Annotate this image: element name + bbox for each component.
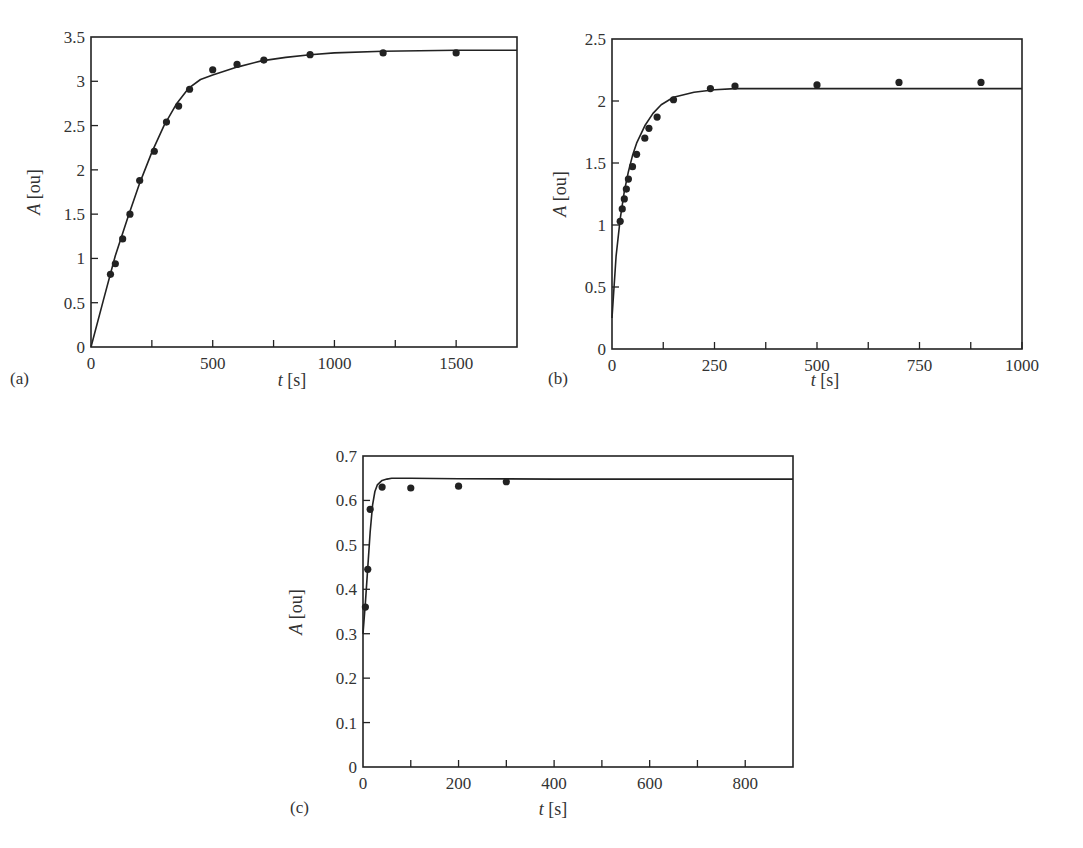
data-point	[453, 49, 460, 56]
y-tick-label: 1.5	[64, 205, 85, 224]
y-tick-label: 0.5	[336, 536, 357, 555]
x-axis-label: t [s]	[811, 370, 840, 390]
plot-frame	[91, 37, 517, 347]
y-tick-label: 2.5	[64, 117, 85, 136]
y-tick-label: 0.5	[64, 294, 85, 313]
data-point	[813, 81, 820, 88]
y-axis-label: A [ou]	[550, 171, 570, 218]
data-point	[407, 484, 414, 491]
x-tick-label: 400	[541, 774, 567, 793]
x-tick-label: 200	[446, 774, 472, 793]
data-point	[136, 177, 143, 184]
fit-curve	[612, 89, 1022, 318]
data-point	[625, 176, 632, 183]
y-tick-label: 0.5	[585, 278, 606, 297]
data-point	[260, 56, 267, 63]
data-point	[633, 151, 640, 158]
x-tick-label: 1000	[317, 354, 351, 373]
data-point	[645, 125, 652, 132]
x-tick-label: 750	[907, 356, 933, 375]
panel-label: (b)	[548, 369, 568, 388]
y-tick-label: 0.3	[336, 625, 357, 644]
data-point	[731, 83, 738, 90]
y-tick-label: 0.4	[336, 580, 358, 599]
data-point	[209, 66, 216, 73]
plot-frame	[363, 456, 793, 767]
y-axis-label: A [ou]	[24, 169, 44, 216]
panel-label: (c)	[290, 798, 309, 817]
chart-panel-b: 0250500750100000.511.522.5t [s]A [ou](b)	[548, 30, 1039, 390]
data-point	[455, 483, 462, 490]
data-point	[503, 478, 510, 485]
data-point	[629, 163, 636, 170]
data-point	[362, 603, 369, 610]
x-axis-label: t [s]	[278, 370, 307, 390]
data-point	[621, 195, 628, 202]
data-point	[233, 61, 240, 68]
x-tick-label: 500	[200, 354, 226, 373]
y-tick-label: 0.6	[336, 491, 357, 510]
data-point	[895, 79, 902, 86]
data-point	[306, 51, 313, 58]
figure: 05001000150000.511.522.533.5t [s]A [ou](…	[0, 0, 1083, 848]
data-point	[364, 566, 371, 573]
x-tick-label: 1500	[439, 354, 473, 373]
data-point	[379, 484, 386, 491]
chart-panel-c: 020040060080000.10.20.30.40.50.60.7t [s]…	[286, 447, 793, 819]
y-tick-label: 0	[349, 758, 358, 777]
y-tick-label: 3.5	[64, 28, 85, 47]
fit-curve	[91, 50, 517, 347]
y-tick-label: 0	[77, 338, 86, 357]
data-point	[977, 79, 984, 86]
data-point	[126, 211, 133, 218]
data-point	[619, 205, 626, 212]
x-tick-label: 0	[87, 354, 96, 373]
y-tick-label: 1	[77, 249, 86, 268]
data-point	[163, 118, 170, 125]
chart-panel-a: 05001000150000.511.522.533.5t [s]A [ou](…	[10, 28, 517, 390]
data-point	[380, 49, 387, 56]
y-tick-label: 2.5	[585, 30, 606, 49]
y-tick-label: 0.1	[336, 714, 357, 733]
y-tick-label: 2	[77, 161, 86, 180]
data-point	[107, 271, 114, 278]
data-point	[367, 506, 374, 513]
x-tick-label: 1000	[1005, 356, 1039, 375]
y-tick-label: 1.5	[585, 154, 606, 173]
x-tick-label: 0	[359, 774, 368, 793]
data-point	[670, 96, 677, 103]
y-tick-label: 1	[598, 216, 607, 235]
x-tick-label: 600	[637, 774, 663, 793]
data-point	[617, 218, 624, 225]
y-tick-label: 0.7	[336, 447, 358, 466]
panel-label: (a)	[10, 369, 29, 388]
fit-curve	[363, 478, 793, 634]
data-point	[641, 135, 648, 142]
data-point	[707, 85, 714, 92]
y-tick-label: 3	[77, 72, 86, 91]
data-point	[112, 260, 119, 267]
x-axis-label: t [s]	[539, 799, 568, 819]
data-point	[151, 148, 158, 155]
x-tick-label: 250	[702, 356, 728, 375]
y-axis-label: A [ou]	[286, 589, 306, 636]
y-tick-label: 0	[598, 340, 607, 359]
data-point	[654, 114, 661, 121]
y-tick-label: 0.2	[336, 669, 357, 688]
data-point	[119, 235, 126, 242]
data-point	[186, 86, 193, 93]
data-point	[623, 185, 630, 192]
y-tick-label: 2	[598, 92, 607, 111]
data-point	[175, 102, 182, 109]
x-tick-label: 800	[732, 774, 758, 793]
x-tick-label: 0	[608, 356, 617, 375]
